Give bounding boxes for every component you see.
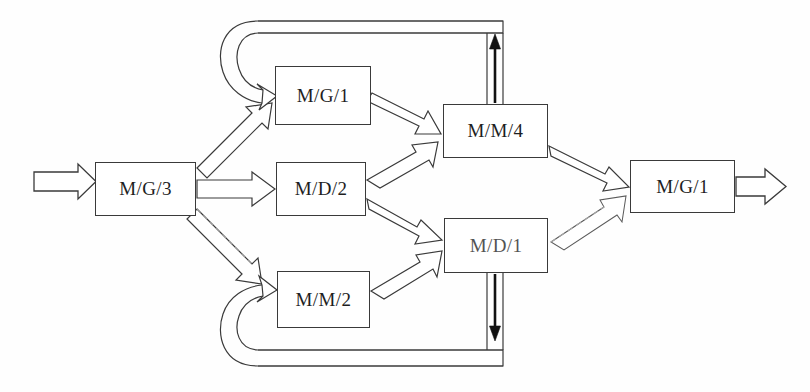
node-md2[interactable]: M/D/2 bbox=[276, 162, 366, 216]
mg3-to-mm2-arrow bbox=[187, 209, 262, 284]
node-mm2[interactable]: M/M/2 bbox=[277, 271, 370, 328]
external-departure-arrow bbox=[736, 169, 786, 204]
node-label-md2: M/D/2 bbox=[295, 178, 348, 200]
mg1-top-to-mm4-arrow bbox=[367, 93, 441, 134]
queueing-network-diagram: M/G/3 M/G/1 M/D/2 M/M/2 M/M/4 M/D/1 M/G/… bbox=[0, 0, 810, 392]
node-label-mg1-right: M/G/1 bbox=[656, 176, 709, 198]
node-mg1-top[interactable]: M/G/1 bbox=[275, 66, 371, 125]
mg3-to-mg1-top-arrow bbox=[197, 103, 272, 178]
node-label-mg1-top: M/G/1 bbox=[297, 85, 350, 107]
node-md1[interactable]: M/D/1 bbox=[444, 218, 548, 273]
md2-to-mm4-arrow bbox=[367, 142, 438, 188]
node-mm4[interactable]: M/M/4 bbox=[443, 104, 548, 158]
md1-to-mg1-right-arrow bbox=[551, 196, 626, 250]
node-mg3[interactable]: M/G/3 bbox=[95, 162, 196, 216]
node-label-mg3: M/G/3 bbox=[119, 178, 172, 200]
node-mg1-right[interactable]: M/G/1 bbox=[630, 160, 735, 213]
node-label-md1: M/D/1 bbox=[470, 235, 523, 257]
external-arrival-arrow bbox=[34, 164, 96, 199]
md2-to-md1-arrow bbox=[367, 199, 442, 244]
node-label-mm4: M/M/4 bbox=[468, 120, 524, 142]
mm4-to-mg1-right-arrow bbox=[549, 146, 629, 191]
node-label-mm2: M/M/2 bbox=[296, 289, 352, 311]
mm2-to-md1-arrow bbox=[371, 251, 442, 299]
